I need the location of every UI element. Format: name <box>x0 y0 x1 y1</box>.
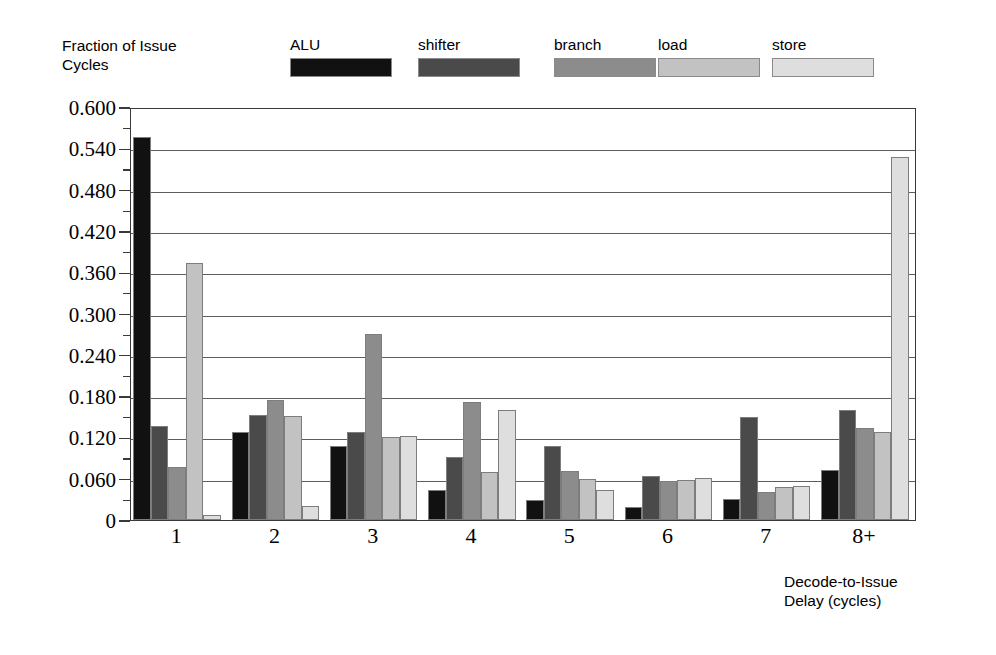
bar-alu-2 <box>232 432 250 520</box>
y-tick-major <box>119 273 130 274</box>
y-tick-major <box>119 190 130 191</box>
y-tick-minor <box>123 169 130 170</box>
y-tick-major <box>119 396 130 397</box>
bar-shifter-3 <box>347 432 365 520</box>
bar-load-5 <box>579 479 597 520</box>
y-tick-label: 0 <box>106 511 117 532</box>
bar-branch-4 <box>463 402 481 520</box>
y-tick-label: 0.480 <box>69 180 116 201</box>
legend-label-load: load <box>658 36 760 53</box>
y-tick-minor <box>123 252 130 253</box>
x-tick-label-3: 3 <box>367 523 378 549</box>
bar-load-4 <box>481 472 499 520</box>
bar-alu-3 <box>330 446 348 520</box>
bar-shifter-7 <box>740 417 758 520</box>
bar-branch-1 <box>168 467 186 520</box>
y-tick-label: 0.420 <box>69 221 116 242</box>
y-tick-minor <box>123 458 130 459</box>
x-tick-label-7: 7 <box>760 523 771 549</box>
x-tick-label-6: 6 <box>662 523 673 549</box>
y-tick-major <box>119 231 130 232</box>
bar-load-7 <box>775 487 793 520</box>
bar-store-3 <box>400 436 418 520</box>
chart-figure: Fraction of Issue Cycles ALUshifterbranc… <box>0 0 996 655</box>
plot-area <box>130 108 916 521</box>
bar-branch-5 <box>561 471 579 520</box>
legend-label-branch: branch <box>554 36 656 53</box>
bar-load-2 <box>284 416 302 520</box>
x-tick-label-4: 4 <box>465 523 476 549</box>
bar-load-1 <box>186 263 204 520</box>
bar-alu-7 <box>723 499 741 520</box>
y-tick-major <box>119 438 130 439</box>
bar-store-7 <box>793 486 811 520</box>
legend-item-alu: ALU <box>290 36 392 77</box>
bar-alu-1 <box>133 137 151 520</box>
x-axis-title: Decode-to-Issue Delay (cycles) <box>784 572 898 610</box>
x-tick-label-1: 1 <box>171 523 182 549</box>
bar-load-3 <box>382 437 400 520</box>
bar-store-1 <box>203 515 221 521</box>
y-tick-minor <box>123 211 130 212</box>
y-tick-minor <box>123 128 130 129</box>
bar-shifter-4 <box>446 457 464 520</box>
legend-item-shifter: shifter <box>418 36 520 77</box>
bar-branch-3 <box>365 334 383 520</box>
y-tick-label: 0.060 <box>69 469 116 490</box>
bar-load-6 <box>677 480 695 520</box>
bar-load-8+ <box>874 432 892 520</box>
legend-swatch-store <box>772 58 874 77</box>
y-tick-major <box>119 520 130 521</box>
bar-shifter-6 <box>642 476 660 520</box>
bar-branch-8+ <box>856 428 874 520</box>
bar-store-6 <box>695 478 713 520</box>
bar-store-5 <box>596 490 614 520</box>
y-tick-major <box>119 149 130 150</box>
y-tick-minor <box>123 293 130 294</box>
y-tick-minor <box>123 500 130 501</box>
bar-branch-2 <box>267 400 285 520</box>
x-tick-label-2: 2 <box>269 523 280 549</box>
legend-swatch-alu <box>290 58 392 77</box>
legend-item-load: load <box>658 36 760 77</box>
y-tick-label: 0.180 <box>69 387 116 408</box>
y-tick-label: 0.540 <box>69 139 116 160</box>
y-axis: 00.0600.1200.1800.2400.3000.3600.4200.48… <box>0 108 130 521</box>
y-tick-major <box>119 479 130 480</box>
y-tick-label: 0.240 <box>69 345 116 366</box>
y-tick-major <box>119 107 130 108</box>
bar-branch-7 <box>758 492 776 520</box>
bar-series-container <box>131 109 915 520</box>
bar-store-8+ <box>891 157 909 520</box>
x-tick-label-8+: 8+ <box>852 523 875 549</box>
y-tick-minor <box>123 335 130 336</box>
legend-item-store: store <box>772 36 874 77</box>
y-tick-major <box>119 355 130 356</box>
bar-alu-4 <box>428 490 446 520</box>
x-axis: 12345678+ <box>130 523 916 557</box>
bar-alu-5 <box>526 500 544 520</box>
chart-legend: ALUshifterbranchloadstore <box>62 36 942 96</box>
bar-shifter-1 <box>151 426 169 520</box>
x-tick-label-5: 5 <box>564 523 575 549</box>
legend-swatch-shifter <box>418 58 520 77</box>
y-tick-label: 0.300 <box>69 304 116 325</box>
y-tick-minor <box>123 417 130 418</box>
bar-shifter-8+ <box>839 410 857 520</box>
y-tick-label: 0.120 <box>69 428 116 449</box>
legend-item-branch: branch <box>554 36 656 77</box>
bar-branch-6 <box>660 481 678 520</box>
bar-alu-6 <box>625 507 643 520</box>
bar-store-4 <box>498 410 516 520</box>
y-tick-label: 0.600 <box>69 98 116 119</box>
y-tick-major <box>119 314 130 315</box>
bar-alu-8+ <box>821 470 839 520</box>
bar-shifter-5 <box>544 446 562 520</box>
legend-label-store: store <box>772 36 874 53</box>
y-tick-label: 0.360 <box>69 263 116 284</box>
bar-shifter-2 <box>249 415 267 520</box>
y-tick-minor <box>123 376 130 377</box>
legend-label-alu: ALU <box>290 36 392 53</box>
bar-store-2 <box>302 506 320 520</box>
legend-swatch-branch <box>554 58 656 77</box>
